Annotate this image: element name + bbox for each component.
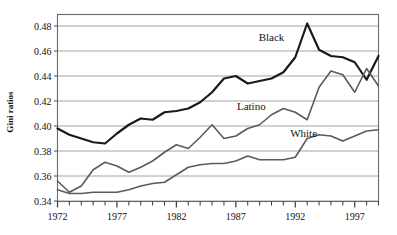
- y-tick-label: 0.44: [34, 71, 52, 82]
- y-tick-label: 0.34: [34, 196, 52, 207]
- y-tick-label: 0.46: [34, 46, 52, 57]
- y-tick-label: 0.48: [34, 21, 52, 32]
- y-tick-label: 0.42: [34, 96, 52, 107]
- y-tick-label: 0.38: [34, 146, 52, 157]
- x-tick-label: 1992: [285, 211, 305, 222]
- x-tick-label: 1972: [48, 211, 68, 222]
- x-tick-label: 1982: [166, 211, 186, 222]
- plot-background: [58, 15, 379, 202]
- x-tick-label: 1987: [226, 211, 246, 222]
- y-axis-title: Gini ratios: [5, 91, 15, 133]
- y-tick-label: 0.36: [34, 171, 52, 182]
- chart-figure: 0.480.460.440.420.400.380.360.3419721977…: [0, 0, 397, 235]
- x-axis-ticks: 197219771982198719921997: [48, 202, 379, 222]
- y-tick-label: 0.40: [34, 121, 52, 132]
- series-label-latino: Latino: [237, 100, 266, 112]
- series-label-white: White: [290, 127, 317, 139]
- x-tick-label: 1997: [345, 211, 365, 222]
- line-chart: 0.480.460.440.420.400.380.360.3419721977…: [0, 0, 397, 235]
- series-label-black: Black: [259, 31, 285, 43]
- x-tick-label: 1977: [107, 211, 127, 222]
- y-axis-ticks: 0.480.460.440.420.400.380.360.34: [34, 21, 58, 207]
